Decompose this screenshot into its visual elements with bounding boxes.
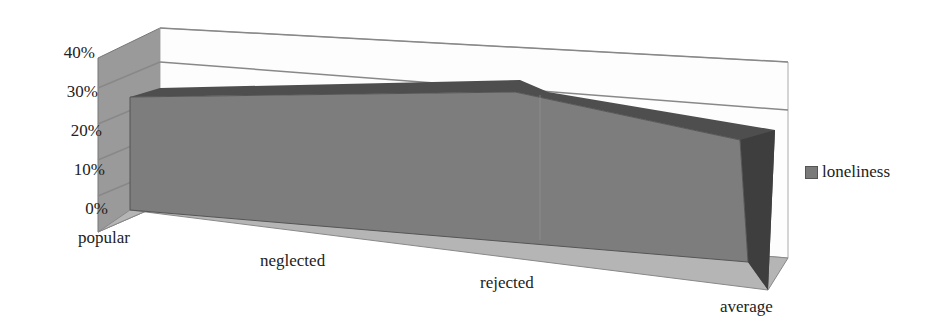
legend-label: loneliness [822,162,890,182]
legend: loneliness [805,162,890,182]
x-label-average: average [720,297,773,317]
x-label-neglected: neglected [260,251,325,271]
y-tick-10: 10% [55,160,105,180]
y-tick-30: 30% [48,82,98,102]
y-tick-40: 40% [45,43,95,63]
y-tick-0: 0% [58,199,108,219]
y-tick-20: 20% [52,121,102,141]
x-label-popular: popular [78,228,130,248]
x-label-rejected: rejected [480,273,534,293]
legend-swatch-icon [805,166,818,179]
